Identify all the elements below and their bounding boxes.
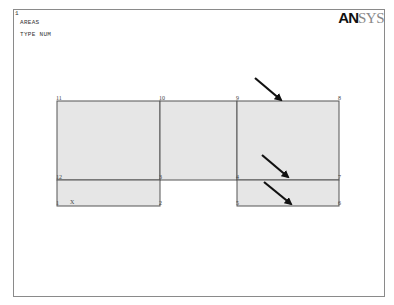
node-label: 11 [56, 95, 62, 101]
arrow-icon [255, 78, 281, 100]
area-mid-upper[interactable] [160, 101, 237, 180]
node-label: 6 [338, 200, 341, 206]
area-right-upper[interactable] [237, 101, 339, 180]
node-label: 1 [56, 200, 59, 206]
node-label: 2 [159, 200, 162, 206]
node-label: 10 [159, 95, 165, 101]
node-label: 9 [236, 95, 239, 101]
node-label: 5 [236, 200, 239, 206]
node-label: 12 [56, 174, 62, 180]
node-label: 4 [236, 174, 239, 180]
node-label: 8 [338, 95, 341, 101]
axis-x-label: X [70, 199, 75, 205]
area-left-upper[interactable] [57, 101, 160, 180]
area-plot[interactable]: 111098123471256 X [0, 0, 394, 305]
node-label: 7 [338, 174, 341, 180]
node-label: 3 [159, 174, 162, 180]
